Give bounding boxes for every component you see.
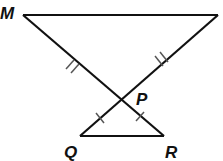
double-tick-np <box>155 52 168 66</box>
label-q: Q <box>64 143 77 161</box>
label-r: R <box>165 143 178 161</box>
label-p: P <box>136 90 148 109</box>
geometry-diagram: M P Q R <box>0 0 223 161</box>
segment-m-r <box>23 15 164 136</box>
label-m: M <box>0 4 15 23</box>
